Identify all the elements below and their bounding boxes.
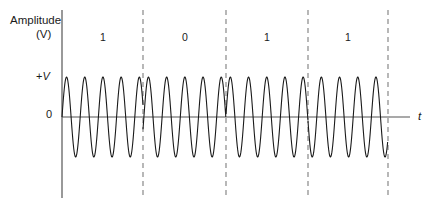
x-axis-label-time: t — [418, 110, 421, 122]
bit-label: 0 — [182, 31, 188, 43]
bit-label: 1 — [100, 31, 106, 43]
bit-label: 1 — [264, 31, 270, 43]
y-axis-title-amplitude: Amplitude — [10, 14, 61, 26]
y-axis-title-units: (V) — [36, 28, 51, 40]
y-tick-voltage-symbol: V — [42, 70, 49, 82]
psk-waveform-figure: Amplitude (V) +V 0 t 1011 — [0, 0, 436, 205]
bit-label: 1 — [345, 31, 351, 43]
psk-waveform-plot — [0, 0, 436, 205]
y-tick-label-zero: 0 — [46, 108, 52, 120]
y-tick-label-plus-v: +V — [36, 70, 50, 82]
